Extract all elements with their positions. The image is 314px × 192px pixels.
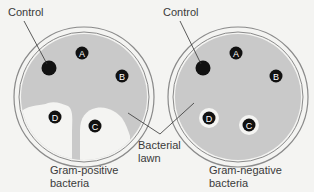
gram-negative-caption: Gram-negative bacteria xyxy=(209,164,282,190)
svg-text:C: C xyxy=(92,122,99,132)
gram-negative-caption-line1: Gram-negative xyxy=(209,164,282,177)
disk-b-left: B xyxy=(116,70,129,83)
gram-positive-caption: Gram-positive bacteria xyxy=(50,164,118,190)
gram-positive-caption-line2: bacteria xyxy=(50,177,118,190)
svg-text:D: D xyxy=(206,114,213,124)
control-disk-left xyxy=(42,61,57,76)
svg-text:B: B xyxy=(119,72,125,82)
disk-a-right: A xyxy=(230,47,243,60)
svg-text:B: B xyxy=(273,72,279,82)
disk-d-right: D xyxy=(203,112,216,125)
svg-text:A: A xyxy=(233,49,239,59)
bacterial-lawn-label-line2: lawn xyxy=(138,152,181,165)
disk-c-left: C xyxy=(89,120,102,133)
svg-text:D: D xyxy=(52,113,59,123)
disk-d-left: D xyxy=(49,111,62,124)
disk-b-right: B xyxy=(270,70,283,83)
gram-positive-caption-line1: Gram-positive xyxy=(50,164,118,177)
control-disk-right xyxy=(196,61,211,76)
petri-dish-gram-positive: A B D C xyxy=(14,27,154,167)
control-label-left: Control xyxy=(8,6,43,19)
bacterial-lawn-label: Bacterial lawn xyxy=(138,139,181,165)
bacterial-lawn-label-line1: Bacterial xyxy=(138,139,181,152)
svg-text:A: A xyxy=(79,49,85,59)
gram-negative-caption-line2: bacteria xyxy=(209,177,282,190)
disk-a-left: A xyxy=(76,47,89,60)
disk-c-right: C xyxy=(243,119,256,132)
control-label-right: Control xyxy=(163,6,198,19)
svg-text:C: C xyxy=(246,121,253,131)
petri-dish-gram-negative: A B D C xyxy=(168,27,308,167)
